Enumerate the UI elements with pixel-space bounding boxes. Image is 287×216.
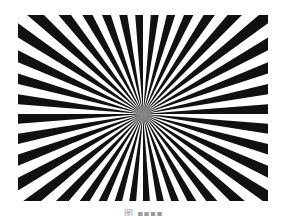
figure-caption: 图 ■■■■ [0,207,287,216]
star-center-moire [134,105,152,123]
siemens-star-figure [18,15,268,201]
faint-bleed-through-text [100,0,250,10]
starburst-pattern [18,15,268,201]
